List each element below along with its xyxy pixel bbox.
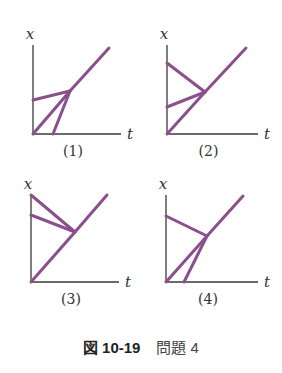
- worldline: [31, 215, 75, 232]
- figure-number: 10-19: [102, 339, 140, 356]
- t-axis-label: t: [264, 125, 271, 143]
- t-axis-label: t: [125, 273, 132, 291]
- panel-label: (2): [199, 143, 219, 159]
- panel-label: (3): [61, 291, 81, 307]
- worldline: [31, 195, 75, 232]
- x-axis-label: x: [24, 175, 33, 193]
- worldline: [167, 63, 205, 92]
- combined-worldline: [70, 48, 109, 91]
- t-axis-label: t: [127, 125, 134, 143]
- panel-4: xt(4): [159, 175, 271, 307]
- combined-worldline: [75, 195, 107, 232]
- worldline: [166, 216, 207, 236]
- panel-2: xt(2): [160, 25, 271, 159]
- panel-label: (1): [63, 143, 83, 159]
- worldline: [53, 91, 70, 134]
- panel-1: xt(1): [26, 25, 134, 159]
- x-axis-label: x: [160, 25, 169, 43]
- x-axis-label: x: [159, 175, 168, 193]
- spacetime-diagram-figure: xt(1)xt(2)xt(3)xt(4): [0, 0, 282, 373]
- t-axis-label: t: [264, 273, 271, 291]
- figure-caption: 図10-19問題 4: [0, 336, 282, 357]
- worldline: [31, 232, 75, 282]
- panel-label: (4): [198, 291, 218, 307]
- combined-worldline: [207, 196, 243, 236]
- x-axis-label: x: [26, 25, 35, 43]
- panel-3: xt(3): [24, 175, 132, 307]
- figure-label: 図: [83, 339, 98, 356]
- figure-title: 問題 4: [156, 339, 199, 356]
- combined-worldline: [205, 48, 246, 92]
